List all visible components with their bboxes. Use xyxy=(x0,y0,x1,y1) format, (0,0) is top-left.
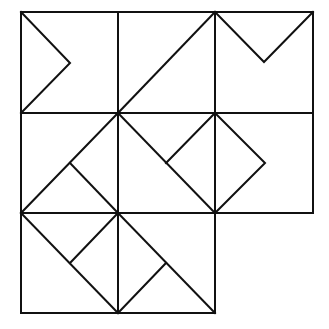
figure-background xyxy=(0,0,329,329)
geometric-pattern-svg: Geometric tile pattern Black line drawin… xyxy=(0,0,329,329)
figure-canvas: Geometric tile pattern Black line drawin… xyxy=(0,0,329,329)
